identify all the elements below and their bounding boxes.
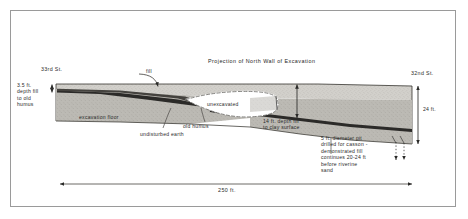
street-label-right: 32nd St. [411,70,434,76]
excavation-step [250,96,277,112]
center-depth-label: 14 ft. depth fill to clay surface [263,118,300,131]
stratum-label-excavation-floor: excavation floor [79,114,119,120]
stratum-label-old-humus: old humus [183,123,209,129]
right-height-label: 24 ft. [423,106,436,112]
figure-title: Projection of North Wall of Excavation [208,58,315,64]
stratum-label-fill: fill [146,68,152,74]
stratum-label-unexcavated: unexcavated [207,101,239,107]
stratum-label-undisturbed-earth: undisturbed earth [140,131,184,137]
caisson-pit-note: 5 ft. diameter pit drilled for casson - … [321,135,368,173]
left-depth-label: 3.5 ft. depth fill to old humus [17,82,38,108]
scale-bar-label: 250 ft. [218,187,236,193]
street-label-left: 33rd St. [41,66,62,72]
excavation-cross-section-figure: Projection of North Wall of Excavation 3… [0,0,468,219]
